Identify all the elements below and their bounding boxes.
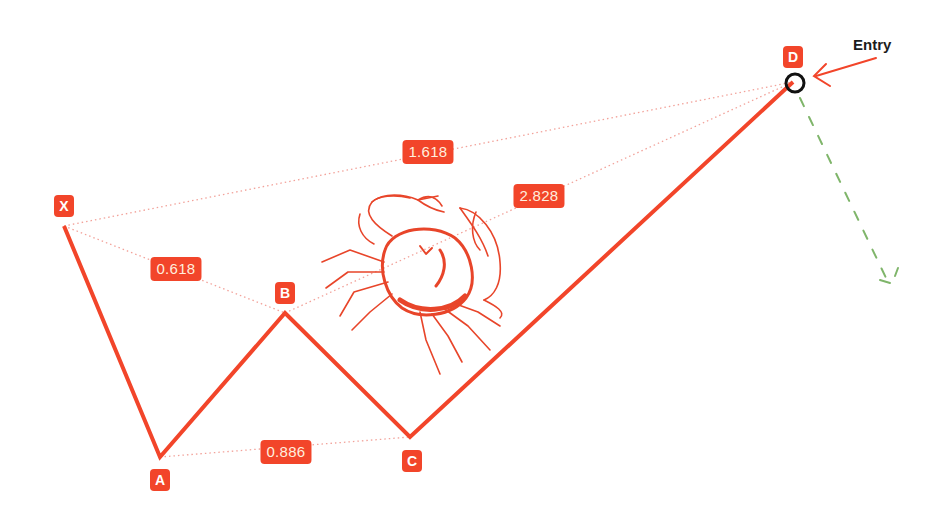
- point-x-label: X: [54, 195, 74, 217]
- ratio-bd-label: 2.828: [513, 184, 564, 208]
- entry-arrow: [814, 58, 876, 86]
- ratio-ac-label: 0.886: [260, 440, 311, 464]
- crab-icon: [322, 195, 502, 374]
- point-b-label: B: [275, 282, 295, 304]
- ratio-xb-label: 0.618: [150, 257, 201, 281]
- ratio-xd-label: 1.618: [402, 140, 453, 164]
- point-a-label: A: [150, 469, 170, 491]
- entry-label: Entry: [853, 36, 891, 53]
- harmonic-pattern-diagram: [0, 0, 952, 521]
- point-d-label: D: [783, 46, 803, 68]
- projection-arrow: [800, 98, 898, 283]
- point-c-label: C: [402, 450, 422, 472]
